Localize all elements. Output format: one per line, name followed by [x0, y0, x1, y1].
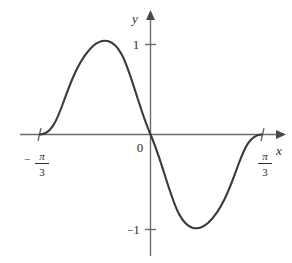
y-tick-label-one: 1 [133, 37, 140, 52]
y-axis-label: y [130, 11, 138, 26]
x-tick-label-pi-over-three: π 3 [258, 150, 272, 178]
origin-label: 0 [137, 140, 144, 155]
x-tick-label-negative-pi-over-three: − π 3 [24, 150, 49, 178]
x-axis-label: x [275, 143, 282, 158]
y-tick-label-negative-one: −1 [127, 222, 140, 237]
pos-pi-denominator: 3 [262, 166, 268, 178]
pos-pi-numerator: π [262, 150, 268, 162]
x-axis-arrow-icon [276, 130, 286, 139]
sine-curve-figure: y x 0 1 −1 − π 3 π 3 [0, 0, 292, 263]
neg-pi-numerator: π [39, 150, 45, 162]
y-axis-arrow-icon [146, 10, 155, 20]
neg-pi-minus-glyph: − [24, 153, 30, 165]
neg-pi-denominator: 3 [39, 166, 45, 178]
negative-one-digit: 1 [133, 222, 140, 237]
